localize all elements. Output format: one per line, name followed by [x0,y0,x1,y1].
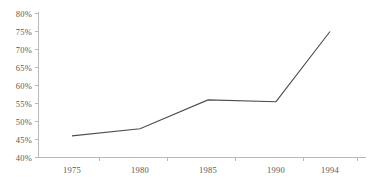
x-tick-label-1985: 1985 [199,165,217,175]
y-tick-marks [35,14,39,158]
y-tick-label-80: 80% [16,9,32,19]
x-tick-label-1980: 1980 [131,165,149,175]
y-tick-labels: 80% 75% 70% 65% 60% 55% 50% 45% 40% [16,9,32,163]
x-tick-label-1990: 1990 [267,165,285,175]
y-tick-label-70: 70% [16,45,32,55]
x-tick-marks [100,158,358,162]
data-series-line [72,32,330,136]
y-tick-label-45: 45% [16,135,32,145]
y-tick-label-75: 75% [16,27,32,37]
x-tick-labels: 1975 1980 1985 1990 1994 [63,165,339,175]
chart-canvas: 80% 75% 70% 65% 60% 55% 50% 45% 40% 1975… [0,0,374,187]
y-tick-label-65: 65% [16,63,32,73]
y-tick-label-40: 40% [16,153,32,163]
y-tick-label-60: 60% [16,81,32,91]
line-chart: 80% 75% 70% 65% 60% 55% 50% 45% 40% 1975… [0,0,374,187]
y-tick-label-50: 50% [16,117,32,127]
y-tick-label-55: 55% [16,99,32,109]
x-tick-label-1994: 1994 [321,165,339,175]
x-tick-label-1975: 1975 [63,165,81,175]
